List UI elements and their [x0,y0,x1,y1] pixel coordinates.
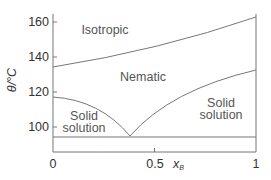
nematic-label: Nematic [120,70,166,84]
x-axis-label: xB [172,157,184,171]
y-axis-label: θ/°C [5,67,19,92]
solid-solution-left-line2: solution [62,121,105,135]
x-tick-label-0: 0 [50,157,57,171]
x-tick-label-0.5: 0.5 [146,157,163,171]
y-tick-label-160: 160 [28,15,49,29]
solid-solution-right-line2: solution [199,108,242,122]
isotropic-label: Isotropic [81,23,128,37]
phase-diagram: 160 140 120 100 0 0.5 1 θ/°C xB Isotropi… [0,0,271,180]
y-tick-label-120: 120 [28,85,49,99]
y-tick-label-140: 140 [28,50,49,64]
y-tick-label-100: 100 [28,120,49,134]
x-tick-label-1: 1 [253,157,260,171]
